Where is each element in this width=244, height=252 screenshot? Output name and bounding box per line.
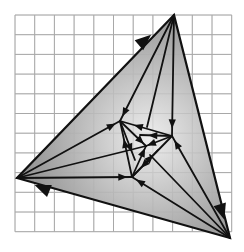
large-arrowhead-icon [35, 185, 52, 197]
pursuit-triangle-diagram [0, 0, 244, 252]
diagram-canvas [0, 0, 244, 252]
pursuit-segment [17, 177, 132, 178]
